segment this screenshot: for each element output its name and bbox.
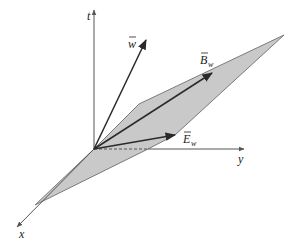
w-vector-label-text: w — [128, 37, 136, 51]
shaded-plane — [35, 35, 284, 205]
x-axis — [17, 149, 94, 227]
E-w-vector-label-text: E — [182, 132, 191, 146]
w-vector-label: w — [128, 37, 136, 51]
B-w-vector-label: B w — [200, 53, 214, 69]
B-w-vector-label-text: B — [200, 53, 208, 67]
y-axis-label: y — [237, 152, 244, 166]
spacetime-diagram: t y x w B w E w — [0, 0, 304, 242]
x-axis-label: x — [18, 227, 25, 241]
B-w-vector-subscript: w — [208, 60, 214, 69]
E-w-vector-label: E w — [182, 132, 197, 148]
t-axis-label: t — [87, 9, 91, 23]
E-w-vector-subscript: w — [191, 139, 197, 148]
